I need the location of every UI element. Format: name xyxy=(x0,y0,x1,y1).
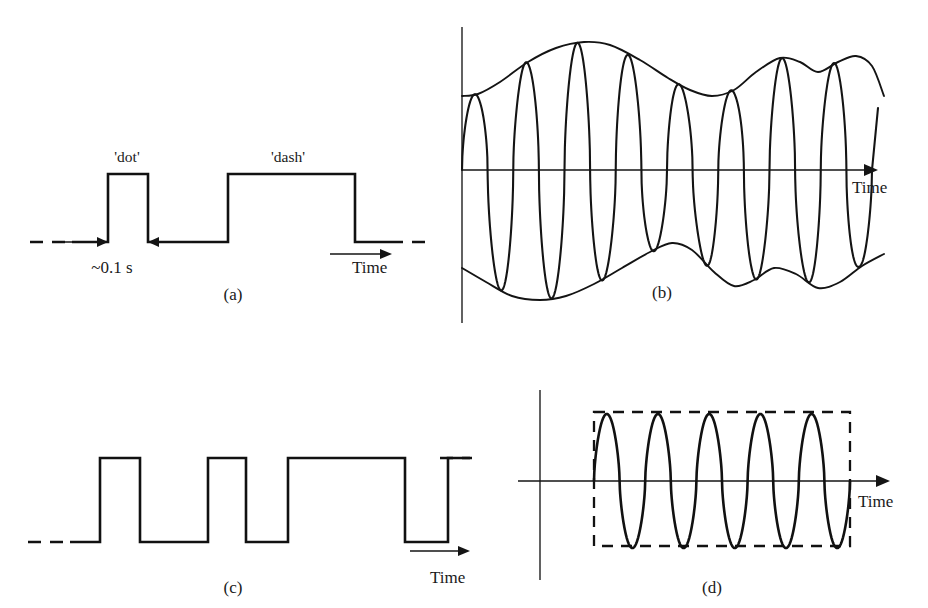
panel-d-time-axis-arrow xyxy=(518,475,890,487)
panel-a-group xyxy=(30,174,432,259)
panel-c-time-axis-label: Time xyxy=(430,568,465,588)
panel-a-keying-waveform xyxy=(72,174,390,242)
panel-d-group xyxy=(518,390,890,580)
panel-b-caption: (b) xyxy=(652,283,672,303)
panel-a-duration-arrows xyxy=(62,237,192,247)
panel-a-time-axis-label: Time xyxy=(352,258,387,278)
panel-b-upper-envelope xyxy=(462,42,884,96)
panel-c-pulse-train-waveform xyxy=(70,458,472,542)
dot-duration-label: ~0.1 s xyxy=(91,258,132,278)
figure-root: (a) (b) (c) (d) Time Time Time Time 'dot… xyxy=(0,0,928,608)
panel-c-time-arrow xyxy=(410,546,470,556)
panel-b-group xyxy=(462,27,884,323)
panel-d-time-axis-label: Time xyxy=(858,492,893,512)
panel-d-caption: (d) xyxy=(702,578,722,598)
panel-b-lower-envelope xyxy=(462,243,884,300)
panel-a-caption: (a) xyxy=(224,285,243,305)
waveform-figure-canvas xyxy=(0,0,928,608)
panel-b-time-axis-label: Time xyxy=(852,178,887,198)
panel-c-caption: (c) xyxy=(224,578,243,598)
dash-pulse-label: 'dash' xyxy=(271,148,305,166)
panel-c-group xyxy=(28,458,472,556)
dot-pulse-label: 'dot' xyxy=(114,148,139,166)
panel-b-time-axis-arrow xyxy=(462,164,878,176)
